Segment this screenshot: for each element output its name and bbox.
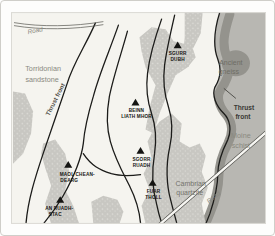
- geological-map: Torridonian sandstone Ancient gneiss Moi…: [11, 12, 266, 224]
- peak-label-beinn-liath-mhor-line2: LIATH MHOR: [121, 115, 152, 120]
- label-cambrian-quartzite-line1: Cambrian: [175, 180, 206, 187]
- peak-label-maol-chean-dearg-line1: MAOL CHEAN-: [60, 172, 95, 177]
- label-torridonian-line1: Torridonian: [25, 64, 61, 73]
- peak-label-sgurr-dubh-line1: SGURR: [169, 51, 187, 56]
- peak-label-an-ruadh-stac-line1: AN RUADH-: [45, 206, 73, 211]
- peak-label-sgorr-ruadh-line2: RUADH: [133, 163, 151, 168]
- map-figure: Torridonian sandstone Ancient gneiss Moi…: [0, 0, 275, 236]
- label-moine-schist-line1: Moine: [231, 131, 251, 140]
- label-thrust-front-east-line2: front: [235, 114, 251, 121]
- label-cambrian-quartzite-line2: quartzite: [176, 189, 203, 197]
- peak-label-an-ruadh-stac-line2: STAC: [49, 212, 63, 217]
- peak-label-fuar-tholl-line1: FUAR: [147, 189, 161, 194]
- peak-label-maol-chean-dearg-line2: DEARG: [60, 178, 78, 183]
- label-ancient-gneiss-line1: Ancient: [219, 59, 242, 66]
- label-ancient-gneiss-line2: gneiss: [219, 68, 240, 76]
- label-torridonian-line2: sandstone: [25, 75, 58, 84]
- peak-label-sgorr-ruadh-line1: SGORR: [133, 157, 151, 162]
- label-thrust-front-east-line1: Thrust: [234, 104, 255, 111]
- peak-label-fuar-tholl-line2: THOLL: [145, 195, 161, 200]
- peak-label-beinn-liath-mhor-line1: BEINN: [129, 108, 145, 113]
- peak-label-sgurr-dubh-line2: DUBH: [171, 57, 186, 62]
- label-moine-schist-line2: schist: [232, 141, 250, 150]
